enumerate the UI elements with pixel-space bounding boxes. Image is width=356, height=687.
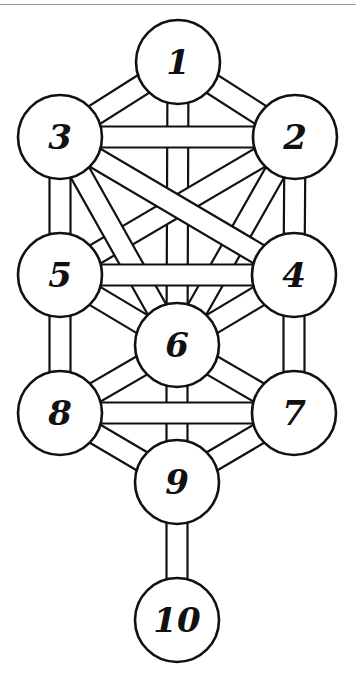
- node-6-label: 6: [165, 325, 189, 365]
- node-8-label: 8: [47, 393, 72, 433]
- node-8: 8: [18, 371, 102, 455]
- path-7-8: [88, 403, 266, 424]
- node-5-label: 5: [48, 255, 72, 295]
- node-9-label: 9: [165, 462, 189, 502]
- node-3: 3: [18, 95, 102, 179]
- node-2-label: 2: [282, 117, 307, 157]
- node-7: 7: [252, 371, 336, 455]
- node-1: 1: [136, 20, 220, 104]
- node-4-label: 4: [282, 255, 306, 295]
- node-1-label: 1: [166, 42, 190, 82]
- path-4-5: [88, 265, 266, 286]
- node-6: 6: [135, 303, 219, 387]
- path-2-3: [88, 127, 267, 148]
- node-4: 4: [252, 233, 336, 317]
- node-7-label: 7: [282, 393, 306, 433]
- node-10-label: 10: [153, 600, 201, 640]
- node-5: 5: [18, 233, 102, 317]
- node-2: 2: [253, 95, 337, 179]
- node-3-label: 3: [48, 117, 72, 157]
- tree-of-life-diagram: 1 2 3 4 5 6 7 8 9 10: [0, 0, 356, 687]
- node-9: 9: [135, 440, 219, 524]
- node-10: 10: [135, 578, 219, 662]
